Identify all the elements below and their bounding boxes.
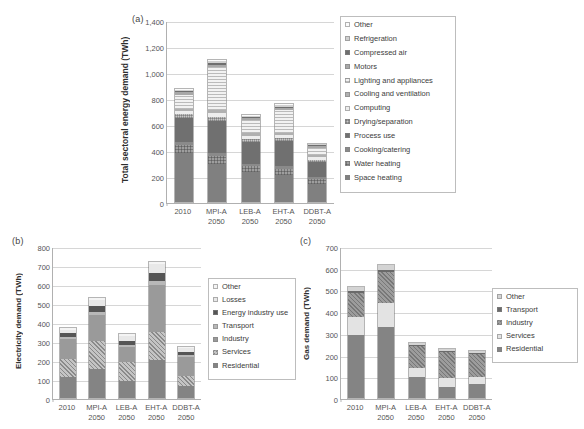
legend-item[interactable]: Space heating	[345, 174, 450, 182]
bar-segment	[348, 293, 364, 317]
bar-column[interactable]	[200, 22, 233, 203]
bar-column[interactable]	[267, 22, 300, 203]
legend-item[interactable]: Cooling and ventilation	[345, 90, 450, 98]
bar-segment	[439, 352, 455, 378]
legend-item[interactable]: Computing	[345, 104, 450, 112]
y-axis-tick: 0	[26, 396, 52, 405]
y-axis-tick: 200	[314, 352, 340, 361]
panel-label-c: (c)	[300, 236, 311, 246]
legend-item[interactable]: Lighting and appliances	[345, 77, 450, 85]
bar-column[interactable]	[234, 22, 267, 203]
bar-segment	[275, 141, 293, 167]
stacked-bar[interactable]	[207, 59, 227, 203]
legend-item-label: Computing	[354, 104, 390, 112]
stacked-bar[interactable]	[177, 346, 195, 399]
bar-column[interactable]	[83, 248, 113, 399]
bar-column[interactable]	[112, 248, 142, 399]
stacked-bar[interactable]	[408, 342, 426, 399]
plot-area-c: 01002003004005006007002010MPI-A 2050LEB-…	[314, 244, 492, 424]
legend-item[interactable]: Cooking/catering	[345, 146, 450, 154]
legend-item[interactable]: Transport	[213, 322, 290, 330]
bar-segment	[60, 377, 76, 398]
legend-item[interactable]: Industry	[213, 335, 290, 343]
stacked-bar[interactable]	[468, 350, 486, 399]
stacked-bar[interactable]	[377, 264, 395, 399]
legend-swatch-icon	[345, 119, 350, 124]
y-axis-tick: 1,200	[134, 44, 166, 53]
y-axis-tick: 500	[314, 287, 340, 296]
y-axis-tick: 600	[26, 282, 52, 291]
legend-item-label: Residential	[506, 345, 543, 353]
stacked-bar[interactable]	[59, 327, 77, 399]
bar-column[interactable]	[167, 22, 200, 203]
legend-item[interactable]: Other	[345, 21, 450, 29]
bar-column[interactable]	[432, 248, 462, 399]
panel-label-b: (b)	[12, 236, 24, 246]
y-axis-tick: 100	[314, 374, 340, 383]
stacked-bar[interactable]	[148, 261, 166, 399]
bar-column[interactable]	[301, 22, 334, 203]
legend-item-label: Industry	[222, 335, 249, 343]
legend-item[interactable]: Other	[213, 283, 290, 291]
legend-item-label: Energy industry use	[222, 309, 288, 317]
legend-swatch-icon	[345, 22, 350, 27]
legend-item[interactable]: Other	[497, 293, 572, 301]
bar-segment	[275, 110, 293, 132]
stacked-bar[interactable]	[174, 88, 194, 203]
legend-item[interactable]: Drying/separation	[345, 118, 450, 126]
legend-item[interactable]: Process use	[345, 132, 450, 140]
legend-item[interactable]: Residential	[497, 345, 572, 353]
bar-segment	[60, 339, 76, 359]
bar-segment	[149, 273, 165, 281]
legend-item[interactable]: Residential	[213, 362, 290, 370]
x-axis-tick-label: 2010	[52, 403, 82, 423]
x-axis-tick-label: EHT-A 2050	[431, 403, 461, 423]
y-axis-tick: 800	[26, 244, 52, 253]
bar-column[interactable]	[371, 248, 401, 399]
x-axis-tick-label: DDBT-A 2050	[300, 207, 334, 227]
stacked-bar[interactable]	[438, 348, 456, 399]
stacked-bar[interactable]	[118, 333, 136, 399]
legend-item-label: Services	[222, 348, 251, 356]
bar-segment	[149, 264, 165, 272]
legend-item[interactable]: Services	[497, 332, 572, 340]
stacked-bar[interactable]	[347, 286, 365, 399]
legend-item[interactable]: Refrigeration	[345, 35, 450, 43]
stacked-bar[interactable]	[241, 114, 261, 203]
bar-column[interactable]	[462, 248, 492, 399]
x-axis-labels: 2010MPI-A 2050LEB-A 2050EHT-A 2050DDBT-A…	[166, 207, 334, 227]
legend-item[interactable]: Industry	[497, 319, 572, 327]
legend-swatch-icon	[345, 64, 350, 69]
legend-item[interactable]: Water heating	[345, 160, 450, 168]
bar-segment	[242, 142, 260, 164]
bar-segment	[348, 335, 364, 398]
bar-segment	[149, 285, 165, 332]
bar-column[interactable]	[401, 248, 431, 399]
bar-column[interactable]	[142, 248, 172, 399]
bar-column[interactable]	[53, 248, 83, 399]
legend-item[interactable]: Losses	[213, 296, 290, 304]
chart-panel-b: (b) Electricity demand (TWh) 01002003004…	[6, 232, 296, 427]
y-axis-tick: 800	[134, 96, 166, 105]
stacked-bar[interactable]	[88, 297, 106, 399]
y-axis-label-c: Gas demand (TWh)	[302, 254, 311, 394]
bar-segment	[439, 387, 455, 398]
legend-item[interactable]: Transport	[497, 306, 572, 314]
bar-segment	[89, 369, 105, 398]
bar-segment	[175, 118, 193, 142]
bar-segment	[175, 153, 193, 202]
legend-item[interactable]: Compressed air	[345, 49, 450, 57]
bar-segment	[119, 362, 135, 380]
bar-segment	[149, 332, 165, 360]
bar-column[interactable]	[341, 248, 371, 399]
stacked-bar[interactable]	[274, 103, 294, 203]
legend-item[interactable]: Energy industry use	[213, 309, 290, 317]
stacked-bar[interactable]	[307, 143, 327, 203]
bar-column[interactable]	[171, 248, 201, 399]
legend-item[interactable]: Motors	[345, 63, 450, 71]
x-axis-tick-label: LEB-A 2050	[112, 403, 142, 423]
legend-item[interactable]: Services	[213, 348, 290, 356]
legend-swatch-icon	[345, 36, 350, 41]
bar-segment	[308, 148, 326, 156]
legend-swatch-icon	[345, 147, 350, 152]
